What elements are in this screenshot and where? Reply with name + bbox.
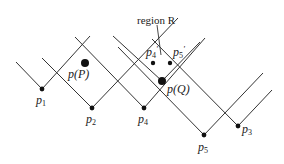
point-p2 [90, 106, 95, 111]
diagram-line-9 [238, 90, 272, 126]
diagram-line-6 [118, 47, 204, 135]
label-pP: p(P) [67, 67, 89, 81]
point-p5prime [168, 61, 172, 65]
label-p4: p4 [137, 112, 148, 127]
point-pP [81, 59, 89, 67]
point-p1 [40, 87, 45, 92]
point-p4 [142, 106, 147, 111]
label-p4prime: p4' [145, 44, 159, 60]
label-p5: p5 [197, 140, 208, 155]
label-pQ: p(Q) [166, 82, 190, 96]
diagram-line-7 [204, 73, 263, 135]
point-p4prime [151, 61, 155, 65]
diagram-line-0 [16, 62, 42, 89]
point-p3 [236, 124, 241, 129]
label-p5prime: p5' [172, 44, 186, 60]
label-p1: p1 [35, 93, 46, 108]
region-r-label: region R [137, 14, 176, 26]
point-pQ [158, 77, 166, 85]
label-p2: p2 [85, 112, 96, 127]
diagram-line-11 [162, 42, 200, 81]
point-p5 [202, 133, 207, 138]
wavefront-diagram: region R p1p2p4p5p3p(P)p(Q)p4'p5' [0, 0, 284, 164]
label-p3: p3 [241, 122, 252, 137]
region-r-text: region R [137, 14, 176, 26]
